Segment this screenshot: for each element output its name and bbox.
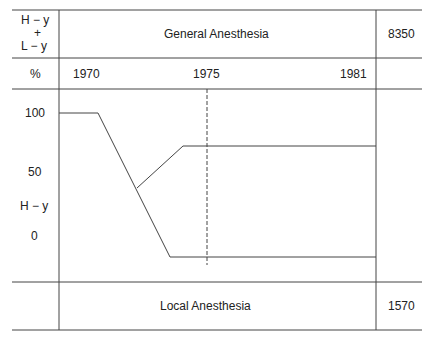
local-anesthesia-total: 1570 [388,299,415,313]
local-anesthesia-title: Local Anesthesia [160,299,251,313]
unit-label: % [30,67,41,81]
y-tick-0: 0 [31,229,38,243]
decline-line [59,113,376,257]
legend-top: H − y [21,13,49,27]
general-anesthesia-title: General Anesthesia [164,27,269,41]
year-1975: 1975 [193,67,220,81]
diagram-lines [0,0,437,338]
legend-plus: + [34,26,41,40]
year-1970: 1970 [73,67,100,81]
y-tick-50: 50 [28,165,41,179]
year-1981: 1981 [340,67,367,81]
general-anesthesia-total: 8350 [388,27,415,41]
legend-bottom: L − y [21,39,47,53]
y-axis-label: H − y [20,199,48,213]
branch-line [137,146,376,188]
y-tick-100: 100 [25,106,45,120]
